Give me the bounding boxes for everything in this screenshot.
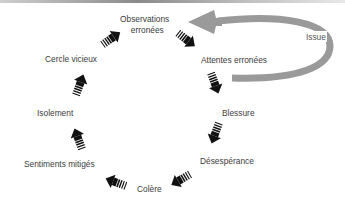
edge-sentiments-isolement [68,126,88,151]
edge-attentes-blessure [205,71,225,96]
edge-colere-sentiments [103,172,128,192]
edge-isolement-cercle [70,72,90,97]
cycle-arrows [0,0,345,208]
edge-blessure-desesperance [205,121,225,146]
edge-cercle-observations [99,27,124,51]
edge-observations-attentes [174,28,199,52]
edge-desesperance-colere [168,168,193,191]
